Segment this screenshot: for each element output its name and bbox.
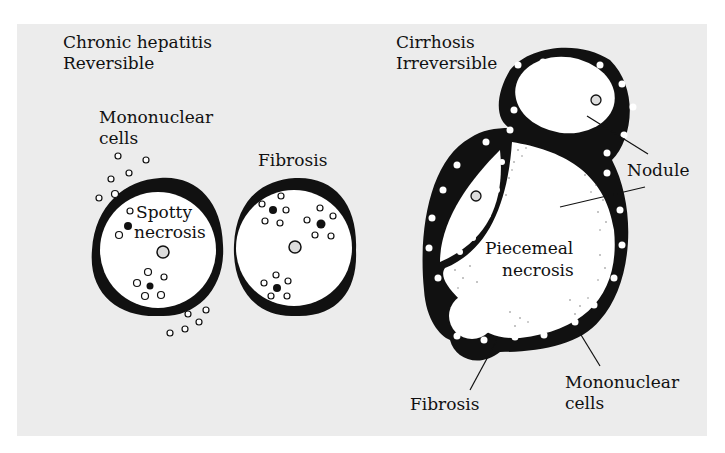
mononuclear-cells-label-2: cells [99,128,138,148]
mononuclear-cells-label-right: Mononuclear [565,372,679,392]
mononuclear-cells-label: Mononuclear [99,107,213,127]
irreversible-label: Irreversible [396,53,497,73]
reversible-label: Reversible [63,53,154,73]
fibrosis-label-right: Fibrosis [410,394,479,414]
mononuclear-cells-label-right-2: cells [565,393,604,413]
cirrhosis-title: Cirrhosis [396,32,475,52]
spotty-necrosis-label: Spotty [136,202,192,222]
lobule-fibrosis [234,178,356,316]
cirrhosis-nodules [423,48,637,361]
nodule-label: Nodule [627,160,689,180]
central-vein [157,246,169,258]
central-vein [289,241,301,253]
piecemeal-necrosis-label: Piecemeal [485,238,573,258]
chronic-hepatitis-title: Chronic hepatitis [63,32,212,52]
piecemeal-necrosis-label-2: necrosis [502,260,574,280]
spotty-necrosis-label-2: necrosis [134,222,206,242]
lobule-spotty-necrosis [92,153,224,336]
fibrosis-label-left: Fibrosis [258,150,327,170]
